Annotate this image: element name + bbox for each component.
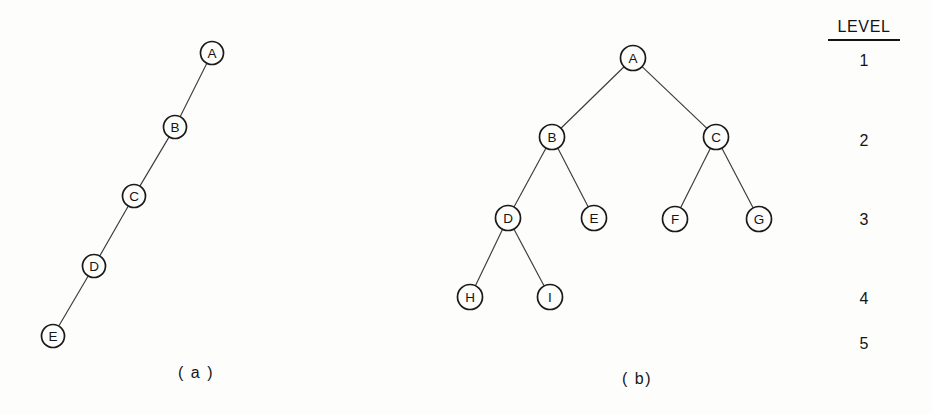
level-number-4: 4 (860, 290, 869, 307)
diagram-b-node-I: I (538, 285, 563, 310)
diagram-b-edge-C-F (681, 148, 711, 208)
diagram-b-node-C: C (704, 125, 729, 150)
diagram-b-edges (475, 67, 753, 286)
diagram-b-node-label-G: G (754, 212, 765, 227)
level-number-5: 5 (860, 335, 869, 352)
diagram-a-node-D: D (83, 255, 106, 278)
diagram-b-node-label-H: H (465, 290, 475, 305)
diagram-a-node-label-B: B (170, 120, 179, 135)
diagram-a-node-B: B (164, 116, 187, 139)
diagram-a-caption: ( a ) (178, 364, 214, 381)
diagram-b-node-label-E: E (589, 211, 598, 226)
diagram-b-edge-D-I (514, 229, 544, 286)
diagram-a-nodes: ABCDE (42, 42, 224, 348)
diagram-b-node-label-F: F (671, 212, 679, 227)
diagram-b-caption: ( b) (622, 370, 652, 387)
diagram-b-node-label-B: B (547, 130, 556, 145)
diagram-b-edge-A-C (642, 67, 707, 129)
diagram-b-node-H: H (458, 285, 483, 310)
level-number-1: 1 (860, 52, 869, 69)
diagram-b-edge-B-E (558, 148, 589, 207)
diagram-a-node-label-E: E (48, 329, 57, 344)
diagram-b-node-label-D: D (503, 211, 513, 226)
diagram-b-node-F: F (663, 207, 688, 232)
level-number-3: 3 (860, 211, 869, 228)
level-number-2: 2 (860, 132, 869, 149)
diagram-a-node-E: E (42, 325, 65, 348)
diagram-b-node-B: B (540, 125, 565, 150)
diagram-b-edge-B-D (514, 148, 546, 207)
diagram-b-edge-D-H (475, 229, 502, 285)
level-number-list: 12345 (860, 52, 869, 352)
diagram-a-node-C: C (123, 185, 146, 208)
diagram-b-node-D: D (496, 206, 521, 231)
diagram-a-edge-A-B (180, 63, 207, 116)
diagram-b-nodes: ABCDEFGHI (458, 46, 772, 310)
diagram-a-node-A: A (201, 42, 224, 65)
diagram-b-node-label-I: I (548, 290, 552, 305)
diagram-a-edge-C-D (100, 206, 129, 256)
diagram-a-node-label-C: C (129, 189, 139, 204)
diagram-a-node-label-D: D (89, 259, 99, 274)
diagram-b-node-G: G (747, 207, 772, 232)
diagram-b-node-E: E (582, 206, 607, 231)
diagram-a-edge-B-C (140, 137, 169, 186)
tree-figure: ABCDE ABCDEFGHI ( a ) ( b) LEVEL 12345 (0, 0, 932, 414)
diagram-b-node-A: A (621, 46, 646, 71)
diagram-a-node-label-A: A (207, 46, 216, 61)
diagram-a-edge-D-E (59, 276, 88, 326)
diagram-b-node-label-A: A (628, 51, 637, 66)
diagram-b-edge-A-B (561, 67, 624, 129)
diagram-b-edge-C-G (722, 148, 753, 208)
diagram-b-node-label-C: C (711, 130, 721, 145)
level-column-header: LEVEL (838, 18, 891, 35)
